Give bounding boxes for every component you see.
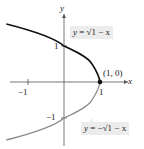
- y-tick-label-1: 1: [54, 41, 59, 51]
- lower-equation-label: y = −√1 − x: [81, 122, 129, 135]
- upper-eq-rhs: = √1 − x: [77, 27, 110, 37]
- lower-eq-rhs: = −√1 − x: [88, 123, 126, 133]
- y-tick-label-neg1: −1: [46, 112, 56, 122]
- point-label: (1, 0): [103, 68, 123, 78]
- point-marker: [98, 80, 103, 85]
- x-tick-label-1: 1: [99, 87, 104, 97]
- x-tick-label-neg1: −1: [18, 87, 28, 97]
- y-axis-label: y: [60, 3, 64, 13]
- upper-equation-label: y = √1 − x: [70, 26, 113, 39]
- x-axis-label: x: [128, 76, 132, 86]
